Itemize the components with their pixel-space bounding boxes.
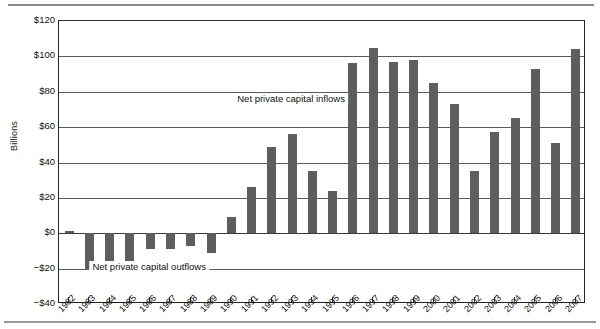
bar — [308, 171, 317, 233]
bar — [429, 83, 438, 233]
bar — [227, 217, 236, 233]
bar — [125, 233, 134, 261]
bar — [571, 49, 580, 233]
gridline — [59, 198, 584, 199]
bottom-divider-rule — [4, 321, 596, 323]
bar — [389, 62, 398, 234]
zero-gridline — [59, 233, 584, 234]
chart-figure: Billions $120$100$80$60$40$20$0−$20−$401… — [0, 0, 600, 329]
annotation-inflows: Net private capital inflows — [234, 93, 348, 104]
y-axis-tick-label: −$20 — [3, 262, 55, 273]
y-axis-tick-label: $100 — [3, 49, 55, 60]
y-axis-tick-label: $120 — [3, 14, 55, 25]
bar — [470, 171, 479, 233]
bar — [450, 104, 459, 233]
bar — [511, 118, 520, 233]
bar — [166, 233, 175, 249]
annotation-outflows: Net private capital outflows — [89, 261, 209, 272]
bar — [267, 147, 276, 234]
bar — [348, 63, 357, 233]
y-axis-title: Billions — [9, 91, 19, 181]
top-divider-rule — [8, 4, 594, 6]
bar — [490, 132, 499, 233]
y-axis-tick-label: $0 — [3, 226, 55, 237]
bar — [328, 191, 337, 233]
bar — [146, 233, 155, 249]
y-axis-tick-label: $20 — [3, 191, 55, 202]
bar — [105, 233, 114, 261]
y-axis-tick-label: $60 — [3, 120, 55, 131]
gridline — [59, 56, 584, 57]
bar — [65, 231, 74, 233]
bar — [186, 233, 195, 245]
bar — [207, 233, 216, 252]
gridline — [59, 127, 584, 128]
gridline — [59, 163, 584, 164]
bar — [551, 143, 560, 233]
bar — [288, 134, 297, 233]
bar — [409, 60, 418, 233]
bar — [247, 187, 256, 233]
y-axis-tick-label: $80 — [3, 85, 55, 96]
y-axis-tick-label: −$40 — [3, 297, 55, 308]
y-axis-tick-label: $40 — [3, 156, 55, 167]
bar — [369, 48, 378, 234]
bar — [531, 69, 540, 233]
